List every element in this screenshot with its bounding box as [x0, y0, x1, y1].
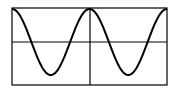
cosine-plot — [0, 0, 177, 89]
